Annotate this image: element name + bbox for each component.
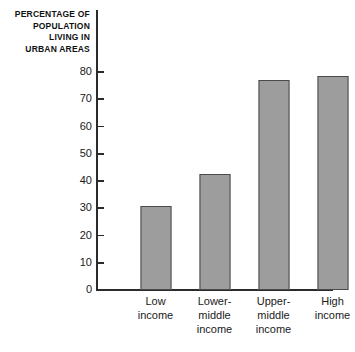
y-tick-label-text: 50 bbox=[64, 148, 92, 159]
x-axis-category-label-line: income bbox=[184, 322, 246, 336]
y-tick-label: 40 bbox=[60, 175, 92, 186]
x-axis-category-label-line: middle bbox=[184, 308, 246, 322]
x-axis-category-label-line: Low bbox=[125, 294, 187, 308]
x-axis-category-label-line: income bbox=[302, 308, 355, 322]
x-axis-category-label-line: income bbox=[125, 308, 187, 322]
y-tick-label-text: 10 bbox=[64, 257, 92, 268]
y-tick-label: 10 bbox=[60, 257, 92, 268]
x-axis-category-label-line: Upper- bbox=[243, 294, 305, 308]
bar[interactable] bbox=[317, 76, 348, 290]
bar-slot bbox=[126, 10, 185, 290]
x-axis-category-label-line: income bbox=[243, 322, 305, 336]
chart-title-line-2: POPULATION bbox=[2, 21, 90, 33]
x-axis-category-label-line: High bbox=[302, 294, 355, 308]
y-tick-label: 0 bbox=[60, 284, 92, 295]
y-tick-label-text: 60 bbox=[64, 121, 92, 132]
y-tick-label: 50 bbox=[60, 148, 92, 159]
y-tick-label: 80 bbox=[60, 66, 92, 77]
y-tick-label-text: 80 bbox=[64, 66, 92, 77]
x-axis-category-label-line: middle bbox=[243, 308, 305, 322]
y-tick-label-text: 30 bbox=[64, 202, 92, 213]
y-tick-label-text: 70 bbox=[64, 93, 92, 104]
bar[interactable] bbox=[258, 80, 289, 290]
chart-title-line-4: URBAN AREAS bbox=[2, 44, 90, 56]
x-axis-category-label-line: Lower- bbox=[184, 294, 246, 308]
y-tick-label: 60 bbox=[60, 121, 92, 132]
chart-title-line-3: LIVING IN bbox=[2, 32, 90, 44]
y-tick-label: 30 bbox=[60, 202, 92, 213]
x-axis-category-label: Lowincome bbox=[125, 294, 187, 322]
x-axis-category-label: Lower-middleincome bbox=[184, 294, 246, 336]
chart-title-line-1: PERCENTAGE OF bbox=[2, 9, 90, 21]
x-axis-category-label: Highincome bbox=[302, 294, 355, 322]
y-tick-label-text: 0 bbox=[64, 284, 92, 295]
bar[interactable] bbox=[199, 174, 230, 290]
chart-title: PERCENTAGE OF POPULATION LIVING IN URBAN… bbox=[2, 9, 90, 55]
bar-slot bbox=[244, 10, 303, 290]
plot-area bbox=[97, 10, 333, 290]
y-tick-label-text: 20 bbox=[64, 230, 92, 241]
y-tick-label-text: 40 bbox=[64, 175, 92, 186]
bar[interactable] bbox=[140, 206, 171, 290]
y-tick-label: 70 bbox=[60, 93, 92, 104]
x-axis-category-label: Upper-middleincome bbox=[243, 294, 305, 336]
bar-slot bbox=[185, 10, 244, 290]
y-tick-label: 20 bbox=[60, 230, 92, 241]
bar-slot bbox=[303, 10, 355, 290]
